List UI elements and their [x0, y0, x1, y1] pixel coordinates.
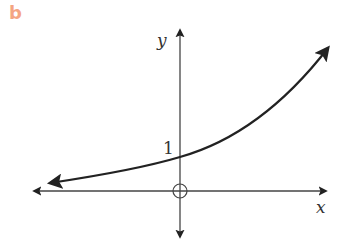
- graph: y x 1: [0, 0, 356, 243]
- y-intercept-label: 1: [163, 138, 174, 158]
- y-axis-label: y: [156, 30, 167, 50]
- exponential-curve: [50, 48, 328, 183]
- x-axis-label: x: [316, 197, 326, 217]
